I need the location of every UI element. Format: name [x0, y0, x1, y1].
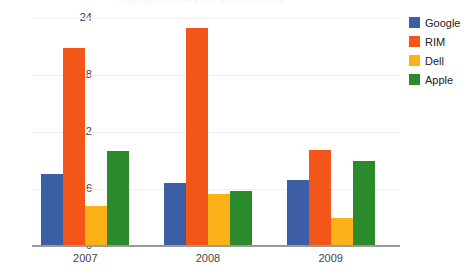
bar[interactable] [186, 28, 208, 247]
x-tick-label: 2008 [154, 252, 262, 264]
legend-swatch-icon [409, 17, 420, 28]
legend-item[interactable]: Dell [409, 51, 469, 70]
legend-item-label: Apple [425, 74, 453, 86]
gridline-6 [32, 189, 400, 190]
legend-item-label: Dell [425, 55, 444, 67]
bar[interactable] [353, 161, 375, 246]
x-tick-label: 2009 [277, 252, 385, 264]
x-tick-label: 2007 [31, 252, 139, 264]
x-axis-line [32, 245, 400, 247]
bar[interactable] [230, 191, 252, 246]
bar-chart: Smartphone Market Share by Year 06121824… [0, 0, 470, 275]
legend-item[interactable]: Apple [409, 70, 469, 89]
legend-item-label: RIM [425, 36, 445, 48]
legend-swatch-icon [409, 74, 420, 85]
gridline-18 [32, 75, 400, 76]
bar[interactable] [41, 174, 63, 246]
chart-title: Smartphone Market Share by Year [32, 0, 372, 3]
legend-item[interactable]: RIM [409, 32, 469, 51]
legend-swatch-icon [409, 55, 420, 66]
gridline-24 [32, 18, 400, 19]
bar[interactable] [107, 151, 129, 246]
bar[interactable] [85, 206, 107, 246]
chart-legend: GoogleRIMDellApple [409, 13, 469, 89]
bar[interactable] [164, 183, 186, 246]
bar[interactable] [331, 218, 353, 247]
bar[interactable] [309, 150, 331, 246]
legend-item-label: Google [425, 17, 460, 29]
legend-item[interactable]: Google [409, 13, 469, 32]
plot-area [32, 18, 400, 246]
bar[interactable] [63, 48, 85, 246]
gridline-12 [32, 132, 400, 133]
bar[interactable] [208, 194, 230, 246]
legend-swatch-icon [409, 36, 420, 47]
bar[interactable] [287, 180, 309, 246]
